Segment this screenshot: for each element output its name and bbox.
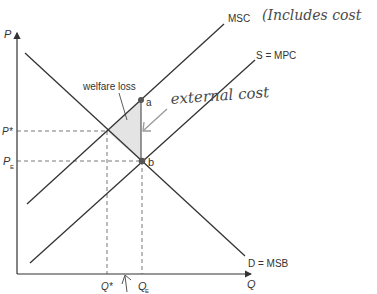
point-a-label: a xyxy=(146,97,152,108)
welfare-loss-label: welfare loss xyxy=(82,81,136,92)
q-e-subscript: E xyxy=(145,288,149,294)
x-axis-label: Q xyxy=(247,278,256,290)
point-b-label: b xyxy=(148,156,154,168)
guide-lines xyxy=(17,131,142,274)
external-cost-arrow xyxy=(143,109,167,131)
externality-diagram: P Q P* P E Q* Q E MSC S = MPC D = MSB a … xyxy=(0,0,377,294)
handwritten-external-cost: external cost xyxy=(170,83,271,108)
handwritten-includes-cost: (Includes cost xyxy=(262,7,362,23)
msb-label: D = MSB xyxy=(248,258,289,269)
p-star-label: P* xyxy=(2,126,14,137)
p-e-subscript: E xyxy=(10,164,14,170)
msc-label: MSC xyxy=(228,13,250,24)
q-star-label: Q* xyxy=(101,281,114,292)
handwritten-up-arrow xyxy=(122,275,131,292)
point-b-marker xyxy=(139,158,146,165)
y-axis-label: P xyxy=(4,28,12,40)
mpc-label: S = MPC xyxy=(256,50,296,61)
point-a-marker xyxy=(138,97,144,103)
